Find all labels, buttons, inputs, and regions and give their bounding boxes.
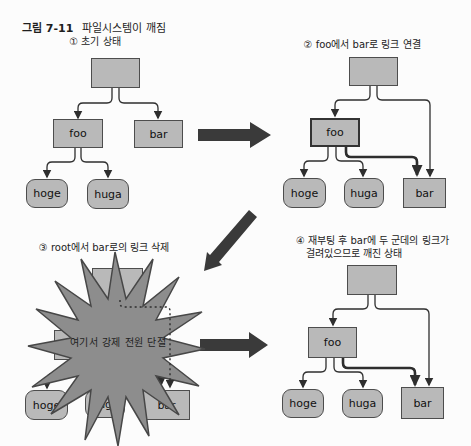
power-cut-starburst — [28, 252, 205, 446]
burst-layer — [0, 0, 471, 446]
figure-canvas: 그림 7-11파일시스템이 깨짐 ① 초기 상태 ② foo에서 bar로 링크… — [0, 0, 471, 446]
power-cut-label: 여기서 강제 전원 단절 — [42, 334, 194, 349]
